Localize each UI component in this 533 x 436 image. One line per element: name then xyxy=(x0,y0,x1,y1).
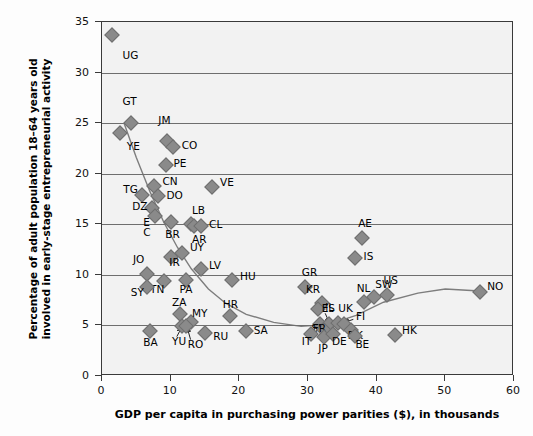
point-label-hu: HU xyxy=(240,271,256,281)
point-label-ir: IR xyxy=(169,257,179,267)
point-label-ug: UG xyxy=(123,50,139,60)
y-tick-label: 5 xyxy=(59,318,89,331)
point-label-sy: SY xyxy=(131,287,144,297)
point-label-ro: RO xyxy=(188,339,204,349)
x-tick-mark xyxy=(170,375,171,381)
trend-line xyxy=(102,22,514,376)
x-tick-label: 30 xyxy=(292,384,322,397)
point-label-es: ES xyxy=(322,303,335,313)
point-label-ru: RU xyxy=(213,331,228,341)
y-tick-label: 25 xyxy=(59,116,89,129)
x-tick-label: 40 xyxy=(361,384,391,397)
x-tick-mark xyxy=(513,375,514,381)
x-tick-mark xyxy=(444,375,445,381)
data-point-gt[interactable] xyxy=(123,115,139,131)
point-label-yu: YU xyxy=(172,336,186,346)
plot-area: UGGTYEJMCOPECNVETGDODZE CBRLBARCLUYIRLVJ… xyxy=(101,21,513,375)
gridline xyxy=(102,73,512,74)
data-point-ae[interactable] xyxy=(354,231,370,247)
point-label-nl: NL xyxy=(357,283,371,293)
point-label-pa: PA xyxy=(180,284,193,294)
gridline xyxy=(102,325,512,326)
point-label-za: ZA xyxy=(172,297,186,307)
point-label-dz: DZ xyxy=(132,201,147,211)
y-tick-mark xyxy=(95,274,101,275)
point-label-us: US xyxy=(384,275,398,285)
point-label-jp: JP xyxy=(318,343,327,353)
y-tick-mark xyxy=(95,72,101,73)
x-tick-mark xyxy=(307,375,308,381)
y-tick-label: 10 xyxy=(59,267,89,280)
data-point-ye[interactable] xyxy=(112,125,128,141)
data-point-hr[interactable] xyxy=(222,309,238,325)
x-tick-label: 10 xyxy=(155,384,185,397)
gridline xyxy=(102,224,512,225)
point-label-jm: JM xyxy=(158,115,170,125)
y-tick-label: 15 xyxy=(59,217,89,230)
data-point-ug[interactable] xyxy=(105,27,121,43)
y-tick-mark xyxy=(95,122,101,123)
point-label-be: BE xyxy=(355,339,369,349)
data-point-is[interactable] xyxy=(348,250,364,266)
x-axis-title: GDP per capita in purchasing power parit… xyxy=(101,408,513,421)
y-axis-title: Percentage of adult population 18–64 yea… xyxy=(27,34,53,364)
x-tick-label: 50 xyxy=(429,384,459,397)
x-tick-mark xyxy=(238,375,239,381)
point-label-cn: CN xyxy=(162,176,177,186)
point-label-jo: JO xyxy=(133,254,144,264)
x-tick-label: 20 xyxy=(223,384,253,397)
point-label-fi: FI xyxy=(356,311,365,321)
y-tick-mark xyxy=(95,173,101,174)
x-tick-mark xyxy=(101,375,102,381)
point-label-ec: E C xyxy=(143,217,150,237)
point-label-do: DO xyxy=(167,190,183,200)
point-label-ve: VE xyxy=(220,177,234,187)
y-tick-mark xyxy=(95,223,101,224)
chart-canvas: UGGTYEJMCOPECNVETGDODZE CBRLBARCLUYIRLVJ… xyxy=(0,0,533,436)
point-label-gr: GR xyxy=(302,267,317,277)
point-label-gt: GT xyxy=(123,96,137,106)
point-label-ye: YE xyxy=(127,141,140,151)
data-point-no[interactable] xyxy=(472,284,488,300)
point-label-hk: HK xyxy=(402,325,417,335)
y-tick-label: 30 xyxy=(59,65,89,78)
point-label-tg: TG xyxy=(123,184,138,194)
data-point-ve[interactable] xyxy=(204,179,220,195)
point-label-kr: KR xyxy=(306,284,320,294)
point-label-br: BR xyxy=(165,229,180,239)
x-tick-label: 60 xyxy=(498,384,528,397)
point-label-hr: HR xyxy=(223,299,238,309)
point-label-it: IT xyxy=(302,336,312,346)
point-label-ae: AE xyxy=(358,218,372,228)
point-label-cl: CL xyxy=(209,219,222,229)
x-tick-mark xyxy=(376,375,377,381)
data-point-hk[interactable] xyxy=(387,327,403,343)
point-label-de: DE xyxy=(332,336,347,346)
point-label-lv: LV xyxy=(209,260,221,270)
point-label-lb: LB xyxy=(192,205,205,215)
y-tick-label: 0 xyxy=(59,369,89,382)
point-label-co: CO xyxy=(182,140,198,150)
point-label-sa: SA xyxy=(254,325,268,335)
y-tick-label: 20 xyxy=(59,166,89,179)
x-tick-label: 0 xyxy=(86,384,116,397)
point-label-ba: BA xyxy=(143,337,157,347)
point-label-no: NO xyxy=(487,281,503,291)
y-tick-label: 35 xyxy=(59,15,89,28)
y-tick-mark xyxy=(95,21,101,22)
label-leader-lines xyxy=(102,22,514,376)
y-tick-mark xyxy=(95,324,101,325)
point-label-uy: UY xyxy=(190,242,204,252)
point-label-uk: UK xyxy=(338,303,353,313)
data-point-pe[interactable] xyxy=(158,157,174,173)
point-label-my: MY xyxy=(192,308,207,318)
point-label-pe: PE xyxy=(173,158,186,168)
point-label-is: IS xyxy=(364,251,374,261)
